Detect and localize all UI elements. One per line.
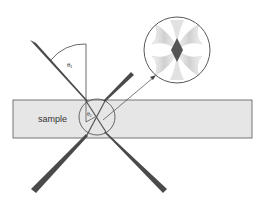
- beam-a-upper: [30, 40, 88, 101]
- diagram-canvas: sample θ₁ θ₂: [0, 0, 263, 204]
- beam-b-lower: [31, 134, 88, 193]
- sample-label: sample: [38, 114, 67, 124]
- angle-label-outer: θ₁: [67, 62, 72, 68]
- beam-a-lower: [104, 132, 167, 193]
- angle-label-inner: θ₂: [87, 111, 92, 117]
- angle-arc-outer: [51, 44, 86, 60]
- beam-b-upper: [103, 72, 134, 101]
